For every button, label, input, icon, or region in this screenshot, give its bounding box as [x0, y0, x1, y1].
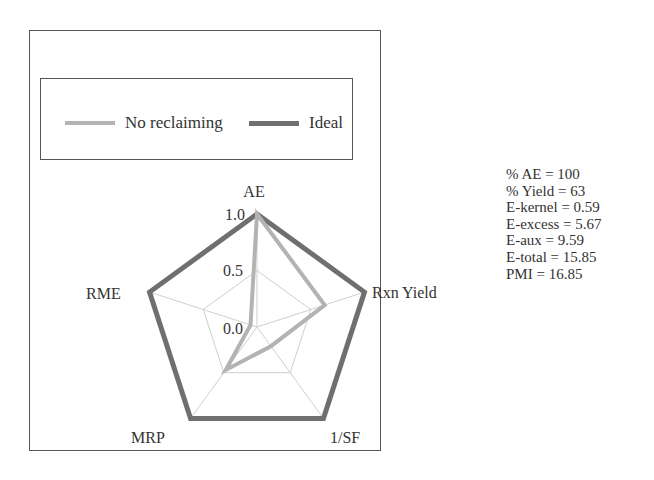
axis-label-mrp: MRP	[131, 429, 165, 446]
axis-label-ae: AE	[243, 183, 264, 200]
metric-ae: % AE = 100	[506, 166, 602, 183]
series-no-reclaiming	[226, 214, 325, 370]
metric-e-kernel: E-kernel = 0.59	[506, 199, 602, 216]
metric-e-total: E-total = 15.85	[506, 249, 602, 266]
metric-e-aux: E-aux = 9.59	[506, 232, 602, 249]
metric-pmi: PMI = 16.85	[506, 266, 602, 283]
axis-label-rme: RME	[86, 285, 121, 302]
metrics-panel: % AE = 100 % Yield = 63 E-kernel = 0.59 …	[506, 166, 602, 282]
tick-label-0-5: 0.5	[223, 262, 243, 279]
metric-yield: % Yield = 63	[506, 183, 602, 200]
metric-e-excess: E-excess = 5.67	[506, 216, 602, 233]
axis-label-rxn-yield: Rxn Yield	[372, 284, 437, 301]
tick-label-1-0: 1.0	[225, 206, 245, 223]
tick-label-0-0: 0.0	[223, 320, 243, 337]
axis-label-1-sf: 1/SF	[330, 429, 360, 446]
